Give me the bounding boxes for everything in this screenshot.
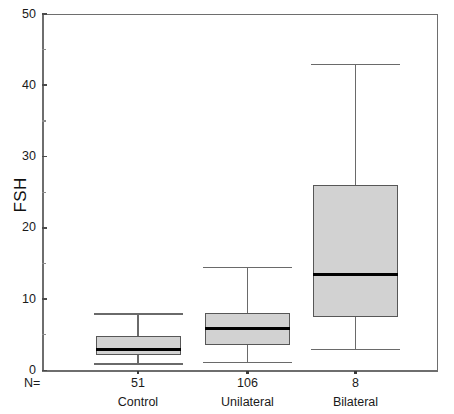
y-tick-major — [42, 227, 47, 229]
y-tick-major — [42, 370, 47, 372]
whisker-lower-cap — [311, 349, 400, 350]
n-count-label: 106 — [203, 376, 293, 390]
whisker-upper-cap — [94, 313, 183, 314]
median-line — [96, 348, 181, 351]
y-tick-major — [42, 84, 47, 86]
whisker-upper-cap — [311, 64, 400, 65]
y-tick-minor — [42, 334, 46, 335]
x-tick — [246, 371, 249, 374]
y-tick-label: 20 — [0, 221, 36, 234]
y-tick-major — [42, 298, 47, 300]
y-tick-label: 10 — [0, 293, 36, 306]
x-tick — [354, 371, 357, 374]
n-count-label: 51 — [93, 376, 183, 390]
y-tick-minor — [42, 120, 46, 121]
n-count-label: 8 — [311, 376, 401, 390]
box-iqr — [96, 336, 181, 355]
x-tick — [137, 371, 140, 374]
x-category-label: Bilateral — [296, 395, 416, 409]
y-tick-major — [42, 156, 47, 158]
whisker-lower-stem — [247, 345, 248, 361]
x-category-label: Unilateral — [188, 395, 308, 409]
y-tick-label: 50 — [0, 8, 36, 21]
y-tick-major — [42, 13, 47, 15]
whisker-upper-stem — [137, 313, 138, 336]
whisker-lower-cap — [94, 363, 183, 364]
x-category-label: Control — [78, 395, 198, 409]
boxplot-chart: FSH 01020304050 N= 51Control106Unilatera… — [0, 0, 454, 414]
whisker-lower-cap — [203, 362, 292, 363]
whisker-upper-stem — [247, 267, 248, 313]
y-tick-minor — [42, 49, 46, 50]
whisker-lower-stem — [355, 317, 356, 349]
y-tick-minor — [42, 192, 46, 193]
y-tick-label: 0 — [0, 364, 36, 377]
median-line — [205, 327, 290, 330]
x-axis-line — [42, 370, 438, 372]
whisker-upper-stem — [355, 64, 356, 185]
box-iqr — [313, 185, 398, 317]
median-line — [313, 273, 398, 276]
n-prefix-label: N= — [24, 376, 40, 390]
whisker-lower-stem — [137, 355, 138, 364]
y-tick-minor — [42, 263, 46, 264]
y-tick-label: 40 — [0, 79, 36, 92]
whisker-upper-cap — [203, 267, 292, 268]
y-tick-label: 30 — [0, 150, 36, 163]
